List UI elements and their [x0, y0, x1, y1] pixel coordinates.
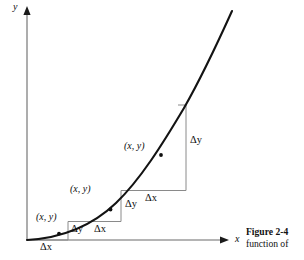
- figure-2-4: y x (x, y) (x, y) (x, y) Δx Δy Δx Δy Δx …: [0, 0, 304, 260]
- small-triangle-dx-label: Δx: [40, 242, 52, 253]
- large-triangle-dy-label: Δy: [190, 135, 202, 146]
- curve-point-marker-3: [159, 153, 163, 157]
- figure-caption-body: function of: [246, 238, 304, 250]
- figure-caption: Figure 2-4 function of: [246, 226, 304, 249]
- curve-point-marker-1: [57, 232, 61, 236]
- x-axis-arrowhead: [220, 236, 229, 243]
- curve-point-label-2: (x, y): [70, 184, 91, 194]
- medium-triangle-dx-label: Δx: [94, 224, 106, 235]
- x-axis-label: x: [235, 234, 239, 244]
- curve-point-label-1: (x, y): [36, 212, 57, 222]
- figure-caption-title: Figure 2-4: [246, 226, 304, 238]
- y-axis-arrowhead: [23, 6, 30, 15]
- small-triangle-dy-label: Δy: [71, 224, 83, 235]
- y-axis-label: y: [13, 2, 17, 12]
- medium-triangle-dy-label: Δy: [125, 199, 137, 210]
- curve-point-marker-2: [109, 208, 113, 212]
- curve-point-label-3: (x, y): [124, 141, 145, 151]
- large-triangle-dx-label: Δx: [145, 193, 157, 204]
